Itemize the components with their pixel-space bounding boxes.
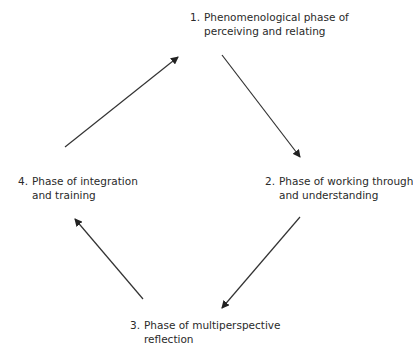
node-1-phenomenological-phase: 1.Phenomenological phase of perceiving a…	[190, 10, 349, 38]
node-4-line1: Phase of integration	[32, 175, 138, 187]
node-1-line1: Phenomenological phase of	[204, 11, 349, 23]
node-3-number: 3.	[130, 318, 144, 332]
node-2-line2: and understanding	[279, 189, 378, 201]
arrow-2-to-3	[222, 217, 300, 308]
node-3-line2: reflection	[144, 333, 194, 345]
node-3-multiperspective-reflection-phase: 3.Phase of multiperspective reflection	[130, 318, 281, 346]
node-1-line2: perceiving and relating	[204, 25, 326, 37]
node-2-working-through-phase: 2.Phase of working through and understan…	[265, 174, 413, 202]
arrow-3-to-4	[75, 219, 143, 299]
node-4-integration-training-phase: 4.Phase of integration and training	[18, 174, 138, 202]
node-4-line2: and training	[32, 189, 96, 201]
arrow-4-to-1	[65, 57, 178, 147]
node-2-line1: Phase of working through	[279, 175, 413, 187]
node-4-number: 4.	[18, 174, 32, 188]
node-1-number: 1.	[190, 10, 204, 24]
node-3-line1: Phase of multiperspective	[144, 319, 281, 331]
node-2-number: 2.	[265, 174, 279, 188]
arrow-1-to-2	[222, 55, 300, 157]
